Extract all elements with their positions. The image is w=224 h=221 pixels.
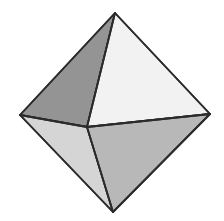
octahedron-figure bbox=[0, 0, 224, 221]
figure-canvas bbox=[0, 0, 224, 221]
polyhedron-faces bbox=[20, 13, 210, 212]
